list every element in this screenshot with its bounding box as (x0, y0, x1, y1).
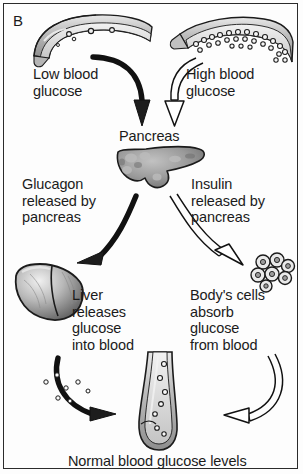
arrow-low-glucose-to-pancreas (93, 57, 150, 126)
label-insulin-released: Insulin released by pancreas (191, 176, 265, 226)
label-high-blood-glucose: High blood glucose (186, 66, 254, 99)
blood-vessel-high-glucose-illustration (170, 17, 293, 62)
label-liver-releases: Liver releases glucose into blood (72, 287, 134, 353)
label-body-cells-absorb: Body's cells absorb glucose from blood (190, 287, 265, 353)
blood-vessel-normal-glucose-illustration (139, 352, 177, 450)
label-glucagon-released: Glucagon released by pancreas (22, 176, 96, 226)
label-low-blood-glucose: Low blood glucose (33, 66, 98, 99)
label-pancreas: Pancreas (119, 128, 179, 145)
label-normal-levels: Normal blood glucose levels (68, 453, 247, 470)
figure-panel: B (0, 0, 303, 474)
arrow-cells-to-blood (224, 354, 283, 423)
arrow-liver-to-blood (44, 358, 116, 421)
